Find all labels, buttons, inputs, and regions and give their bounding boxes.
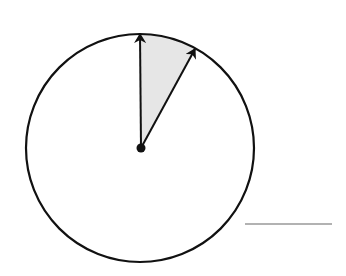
center-point (137, 144, 146, 153)
circle-sector-diagram (0, 0, 346, 276)
vertical-radius-arrow (140, 34, 141, 148)
